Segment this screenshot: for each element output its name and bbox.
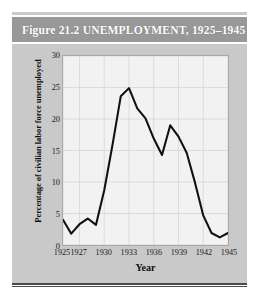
y-tick-label: 30: [42, 51, 60, 60]
x-tick-label: 1930: [96, 248, 112, 257]
plot-frame: [62, 55, 229, 246]
line-chart-svg: [63, 56, 228, 245]
y-tick-label: 20: [42, 114, 60, 123]
figure-bottom-rule: [12, 283, 247, 287]
figure-title: Figure 21.2 UNEMPLOYMENT, 1925–1945: [12, 24, 245, 36]
y-axis-tick-labels: 051015202530: [42, 48, 60, 248]
x-tick-label: 1945: [221, 248, 237, 257]
x-axis-tick-labels: 19251927193019331936193919421945: [62, 248, 229, 262]
x-tick-label: 1925: [54, 248, 70, 257]
x-tick-label: 1939: [171, 248, 187, 257]
figure-root: Figure 21.2 UNEMPLOYMENT, 1925–1945 Perc…: [0, 0, 259, 298]
x-tick-label: 1942: [196, 248, 212, 257]
y-tick-label: 25: [42, 82, 60, 91]
y-tick-label: 15: [42, 146, 60, 155]
chart-area: Percentage of civilian labor force unemp…: [12, 48, 247, 280]
x-tick-label: 1927: [71, 248, 87, 257]
x-tick-label: 1936: [146, 248, 162, 257]
x-tick-label: 1933: [121, 248, 137, 257]
figure-title-bar: Figure 21.2 UNEMPLOYMENT, 1925–1945: [12, 15, 247, 44]
y-tick-label: 5: [42, 210, 60, 219]
y-tick-label: 10: [42, 178, 60, 187]
x-axis-title: Year: [62, 262, 229, 273]
